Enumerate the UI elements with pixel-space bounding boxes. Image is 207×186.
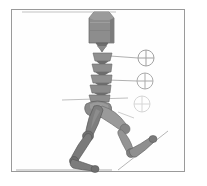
articulated-figure-illustration <box>0 0 207 186</box>
segment-foot-right <box>129 136 157 158</box>
joint-marker-upper[interactable] <box>138 50 154 66</box>
leg-right-group <box>98 106 157 158</box>
joint-marker-middle[interactable] <box>137 73 153 89</box>
joint-markers-group <box>134 50 154 112</box>
segment-neck-wedge <box>96 43 108 52</box>
leader-line-upper <box>110 56 138 58</box>
figure-panel <box>0 0 207 186</box>
leader-lines-group <box>108 56 138 81</box>
spine-vertebra-stack <box>89 53 112 102</box>
joint-marker-lower[interactable] <box>134 96 150 112</box>
leg-left-group <box>70 106 104 173</box>
leader-line-middle <box>108 80 137 81</box>
segment-torso-block <box>89 12 114 43</box>
